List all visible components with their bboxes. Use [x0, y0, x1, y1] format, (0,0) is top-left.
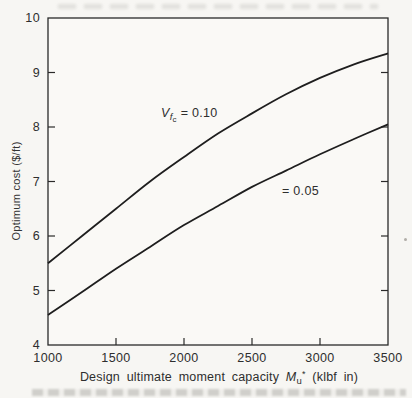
x-tick-label-3500: 3500 — [373, 351, 402, 365]
y-axis-tick-labels: 45678910 — [25, 11, 40, 352]
curve-label-vfc-0.10: Vfc = 0.10 — [161, 106, 218, 124]
optimum-cost-chart: 45678910 100015002000250030003500 Optimu… — [0, 0, 412, 398]
y-tick-label-10: 10 — [25, 11, 40, 25]
y-tick-label-5: 5 — [33, 284, 40, 298]
x-axis-tick-labels: 100015002000250030003500 — [33, 351, 402, 365]
y-tick-label-8: 8 — [33, 120, 40, 134]
y-tick-label-9: 9 — [33, 66, 40, 80]
scan-speck — [404, 238, 407, 241]
x-tick-label-1000: 1000 — [33, 351, 62, 365]
cropped-caption-fragment — [32, 389, 406, 396]
plot-canvas: 45678910 100015002000250030003500 — [0, 0, 412, 398]
x-tick-label-1500: 1500 — [101, 351, 130, 365]
curve-label-vfc-0.05: = 0.05 — [282, 184, 319, 198]
x-tick-label-2500: 2500 — [237, 351, 266, 365]
plot-frame — [48, 18, 388, 345]
x-tick-label-2000: 2000 — [169, 351, 198, 365]
x-tick-label-3000: 3000 — [305, 351, 334, 365]
scan-smudge-top — [58, 4, 378, 9]
y-tick-label-6: 6 — [33, 229, 40, 243]
y-axis-title: Optimum cost ($/ft) — [10, 141, 22, 240]
y-tick-label-7: 7 — [33, 175, 40, 189]
x-axis-title: Design ultimate moment capacity Mu* (klb… — [80, 369, 358, 386]
